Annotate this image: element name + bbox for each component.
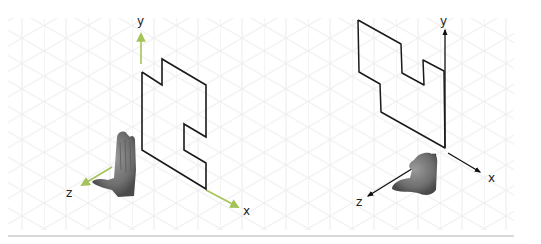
left-x-label: x [243, 204, 250, 218]
coordinate-system-figure: y x z y x z [0, 0, 541, 244]
left-y-label: y [137, 14, 144, 28]
isometric-grid [8, 18, 514, 230]
right-z-label: z [356, 195, 362, 209]
left-z-label: z [66, 186, 72, 200]
right-y-label: y [440, 14, 447, 28]
bottom-divider [8, 235, 514, 237]
right-x-label: x [488, 171, 495, 185]
